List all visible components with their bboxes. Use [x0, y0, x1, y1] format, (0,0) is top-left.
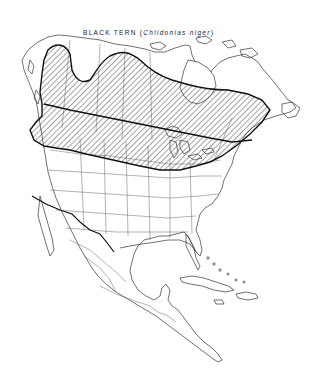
us-mexico-border	[32, 196, 114, 252]
breeding-range	[30, 45, 270, 170]
range-map	[0, 0, 317, 378]
